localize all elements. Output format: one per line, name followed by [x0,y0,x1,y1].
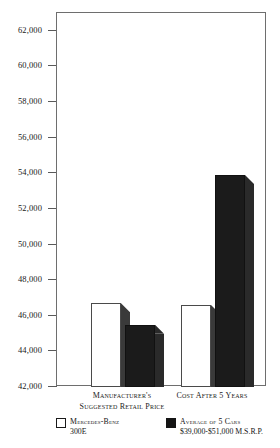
y-axis-tick-label: 48,000 [0,274,42,284]
bar-front-face [181,305,211,387]
bar [181,305,211,387]
legend-label-average: Average of 5 Cars $39,000-$51,000 M.S.R.… [180,417,263,437]
bar-top-bevel [121,303,130,312]
y-axis-tick-label: 44,000 [0,345,42,355]
x-axis-label: Cost After 5 Years [152,391,272,402]
bar-front-face [91,303,121,387]
legend-swatch-light-icon [56,418,66,428]
y-axis-tick-label: 46,000 [0,310,42,320]
y-axis-tick-label: 56,000 [0,132,42,142]
bar-top-bevel [155,325,164,334]
bar-top-bevel [245,175,254,184]
legend-label-line2: $39,000-$51,000 M.S.R.P. [180,427,263,437]
bar-front-face [215,175,245,387]
plot-area [56,12,266,386]
bar-side-face [155,334,164,387]
legend-item-mercedes: Mercedes-Benz 300E [56,417,160,437]
bar [125,325,155,387]
y-axis-tick-label: 54,000 [0,167,42,177]
bar [91,303,121,387]
bar-front-face [125,325,155,387]
y-axis-tick-label: 58,000 [0,96,42,106]
y-axis-tick-label: 62,000 [0,25,42,35]
legend-item-average: Average of 5 Cars $39,000-$51,000 M.S.R.… [166,417,280,437]
y-axis-tick-label: 50,000 [0,239,42,249]
y-axis-tick-label: 52,000 [0,203,42,213]
y-axis-tick-label: 60,000 [0,60,42,70]
y-axis-tick-label: 42,000 [0,381,42,391]
legend-label-line1: Average of 5 Cars [180,417,263,427]
legend-label-line1: Mercedes-Benz [70,417,119,427]
x-axis-label-line: Suggested Retail Price [62,402,182,413]
bar [215,175,245,387]
x-axis-label-line: Cost After 5 Years [152,391,272,402]
chart-legend: Mercedes-Benz 300E Average of 5 Cars $39… [56,417,280,445]
bar-side-face [245,184,254,387]
legend-label-line2: 300E [70,427,119,437]
bar-chart: 42,00044,00046,00048,00050,00052,00054,0… [0,0,280,448]
legend-label-mercedes: Mercedes-Benz 300E [70,417,119,437]
legend-swatch-dark-icon [166,418,176,428]
y-axis-tick [48,386,57,387]
